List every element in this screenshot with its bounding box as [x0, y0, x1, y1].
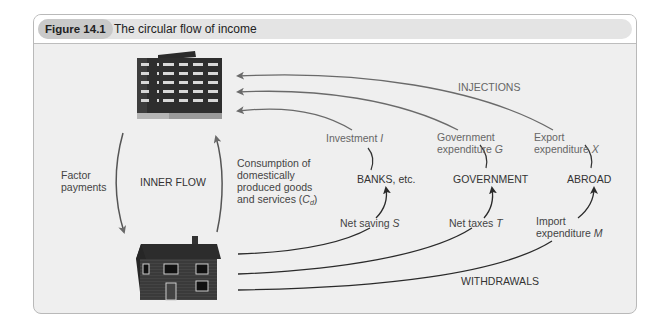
- consumption-label: Consumption of domestically produced goo…: [237, 157, 317, 209]
- export-line-2: expenditure X: [534, 143, 599, 155]
- investment-text: Investment: [326, 132, 377, 144]
- investment-injection-curve: [238, 109, 352, 130]
- government-node: GOVERNMENT: [453, 173, 528, 185]
- gov-line-2-text: expenditure: [437, 143, 492, 155]
- imports-arrow: [578, 188, 594, 218]
- saving-arrow: [376, 188, 387, 218]
- office-building-icon: [137, 51, 222, 119]
- taxes-arrow: [484, 188, 493, 218]
- consumption-line-3: produced goods: [237, 181, 317, 193]
- consumption-line-1: Consumption of: [237, 157, 317, 169]
- import-expenditure-label: Import expenditure M: [536, 215, 603, 239]
- gov-line-2: expenditure G: [437, 143, 503, 155]
- consumption-line-2: domestically: [237, 169, 317, 181]
- consumption-suffix: ): [314, 193, 318, 205]
- withdrawals-label: WITHDRAWALS: [461, 275, 539, 287]
- investment-symbol: I: [380, 132, 383, 144]
- government-injection-curve: [238, 91, 458, 130]
- gov-line-1: Government: [437, 131, 503, 143]
- net-taxes-label: Net taxes T: [449, 217, 503, 229]
- import-line-2: expenditure M: [536, 227, 603, 239]
- net-saving-label: Net saving S: [340, 217, 400, 229]
- taxes-text: Net taxes: [449, 217, 493, 229]
- consumption-line-4: and services (Cd): [237, 193, 317, 209]
- banks-node: BANKS, etc.: [357, 173, 415, 185]
- export-line-2-text: expenditure: [534, 143, 589, 155]
- taxes-symbol: T: [496, 217, 502, 229]
- factor-payments-arrow: [116, 133, 124, 232]
- circular-flow-diagram: [0, 0, 672, 333]
- gov-symbol: G: [495, 143, 503, 155]
- injections-label: INJECTIONS: [458, 81, 520, 93]
- saving-withdrawal-curve: [238, 228, 370, 254]
- investment-connector: [368, 148, 373, 170]
- import-line-1: Import: [536, 215, 603, 227]
- factor-line-1: Factor: [61, 169, 107, 181]
- saving-text: Net saving: [340, 217, 390, 229]
- export-symbol: X: [592, 143, 599, 155]
- government-expenditure-label: Government expenditure G: [437, 131, 503, 155]
- house-icon: [136, 236, 221, 300]
- import-line-2-text: expenditure: [536, 227, 591, 239]
- abroad-node: ABROAD: [567, 173, 611, 185]
- consumption-symbol: C: [302, 193, 310, 205]
- consumption-arrow: [216, 137, 222, 232]
- export-line-1: Export: [534, 131, 599, 143]
- saving-symbol: S: [393, 217, 400, 229]
- factor-payments-label: Factor payments: [61, 169, 107, 193]
- investment-label: Investment I: [326, 132, 383, 144]
- import-symbol: M: [594, 227, 603, 239]
- inner-flow-label: INNER FLOW: [140, 176, 206, 188]
- factor-line-2: payments: [61, 181, 107, 193]
- consumption-prefix: and services (: [237, 193, 302, 205]
- export-expenditure-label: Export expenditure X: [534, 131, 599, 155]
